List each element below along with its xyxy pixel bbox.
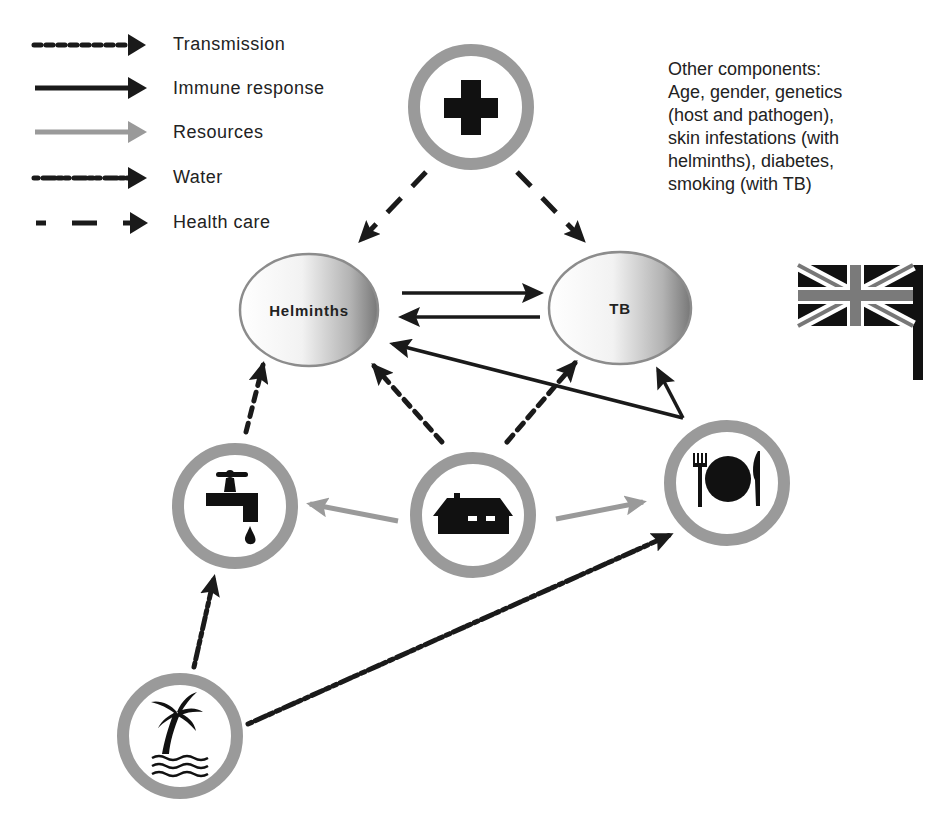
edge-water-to-helminths xyxy=(246,365,263,432)
legend-label-resources: Resources xyxy=(173,122,264,143)
other-components-line: smoking (with TB) xyxy=(668,173,948,196)
legend-swatch-water xyxy=(34,167,147,189)
legend-label-immune-response: Immune response xyxy=(173,78,325,99)
node-housing xyxy=(416,458,530,572)
legend-label-health-care: Health care xyxy=(173,212,271,233)
edge-healthcare-to-tb xyxy=(517,172,583,240)
legend-swatch-health-care xyxy=(36,212,148,234)
node-food xyxy=(670,426,784,540)
other-components-note: Other components: Age, gender, genetics … xyxy=(668,58,948,196)
node-environment xyxy=(123,679,237,793)
node-tb: TB xyxy=(549,252,691,364)
edge-housing-to-water xyxy=(310,504,398,521)
legend xyxy=(34,34,148,234)
edge-environment-to-water xyxy=(194,578,214,667)
other-components-line: Age, gender, genetics xyxy=(668,81,948,104)
other-components-title: Other components: xyxy=(668,58,948,81)
legend-swatch-transmission xyxy=(34,34,146,56)
other-components-line: helminths), diabetes, xyxy=(668,150,948,173)
edge-healthcare-to-helminths xyxy=(361,172,426,240)
edge-housing-to-food xyxy=(556,502,643,519)
helminths-label: Helminths xyxy=(269,302,349,319)
other-components-line: skin infestations (with xyxy=(668,127,948,150)
node-water xyxy=(178,449,292,563)
legend-swatch-resources xyxy=(35,121,147,143)
legend-label-water: Water xyxy=(173,167,223,188)
other-components-line: (host and pathogen), xyxy=(668,104,948,127)
uk-flag-icon xyxy=(798,265,923,380)
legend-swatch-immune-response xyxy=(35,77,147,99)
edge-housing-to-helminths xyxy=(374,366,442,442)
node-health-care xyxy=(414,50,528,164)
node-helminths: Helminths xyxy=(240,254,378,366)
diagram-canvas: Helminths TB xyxy=(0,0,948,826)
tb-label: TB xyxy=(609,300,631,317)
legend-label-transmission: Transmission xyxy=(173,34,285,55)
